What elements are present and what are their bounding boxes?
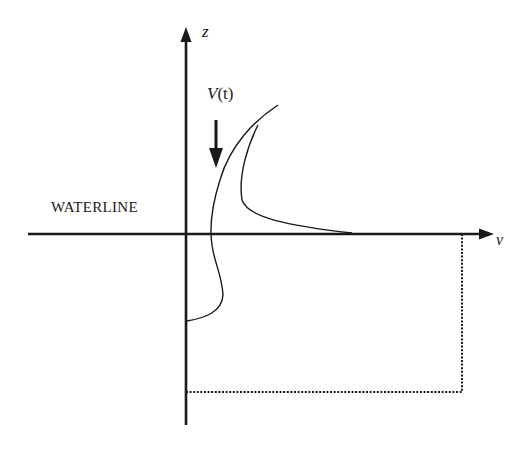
velocity-arrow-down-icon [209, 148, 223, 168]
v-axis-label: v [496, 231, 503, 249]
outer-profile-curve [187, 105, 278, 321]
velocity-argument: (t) [217, 84, 233, 103]
domain-boundary-dotted [186, 234, 462, 392]
z-axis-label: z [202, 22, 209, 42]
jet-profile-curve [241, 125, 352, 233]
velocity-symbol: V [207, 84, 217, 103]
v-axis-arrowhead-icon [479, 229, 494, 240]
diagram-canvas [0, 0, 528, 454]
waterline-label: WATERLINE [51, 199, 138, 216]
velocity-label: V(t) [207, 84, 233, 104]
z-axis-arrowhead-icon [181, 27, 192, 42]
